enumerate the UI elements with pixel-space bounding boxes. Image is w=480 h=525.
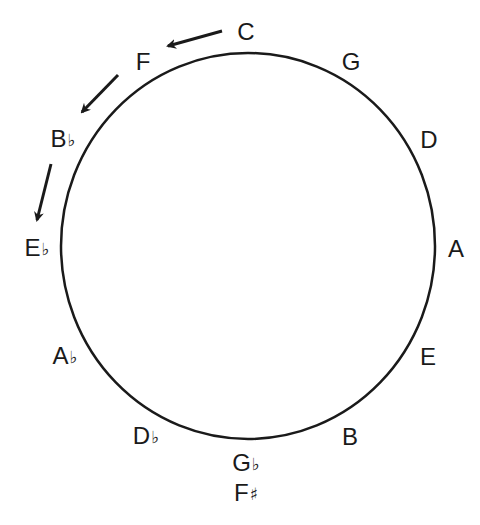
- note-label-g: G: [342, 50, 361, 74]
- arrow-icon-c-to-f: [168, 31, 222, 46]
- note-letter: G: [232, 449, 251, 476]
- fifths-circle: [61, 53, 435, 439]
- note-label-c: C: [237, 20, 254, 44]
- note-letter: B: [50, 125, 66, 152]
- note-label-gb: G♭: [232, 451, 260, 477]
- note-letter: A: [448, 235, 464, 262]
- note-letter: A: [52, 342, 68, 369]
- note-letter: G: [342, 48, 361, 75]
- note-label-e: E: [420, 345, 436, 369]
- sharp-icon: ♯: [250, 484, 258, 504]
- flat-icon: ♭: [151, 427, 159, 447]
- note-label-bb: B♭: [50, 127, 75, 153]
- note-label-fs: F♯: [234, 481, 258, 507]
- circle-of-fifths-diagram: CGDAEBG♭F♯D♭A♭E♭B♭F: [0, 0, 480, 525]
- note-letter: B: [342, 423, 358, 450]
- flat-icon: ♭: [67, 130, 75, 150]
- arrow-icon-f-to-bb: [82, 75, 118, 112]
- note-letter: E: [24, 234, 40, 261]
- note-label-ab: A♭: [52, 344, 77, 370]
- note-label-b: B: [342, 425, 358, 449]
- note-letter: F: [136, 48, 151, 75]
- arrow-icon-bb-to-eb: [37, 164, 51, 220]
- note-letter: F: [234, 479, 249, 506]
- note-label-d: D: [420, 128, 437, 152]
- flat-icon: ♭: [252, 454, 260, 474]
- note-label-eb: E♭: [24, 236, 49, 262]
- note-label-a: A: [448, 237, 464, 261]
- note-label-db: D♭: [133, 424, 159, 450]
- diagram-canvas: [0, 0, 480, 525]
- note-letter: E: [420, 343, 436, 370]
- note-letter: D: [420, 126, 437, 153]
- note-letter: C: [237, 18, 254, 45]
- flat-icon: ♭: [41, 239, 49, 259]
- flat-icon: ♭: [69, 347, 77, 367]
- note-label-f: F: [136, 50, 151, 74]
- note-letter: D: [133, 422, 150, 449]
